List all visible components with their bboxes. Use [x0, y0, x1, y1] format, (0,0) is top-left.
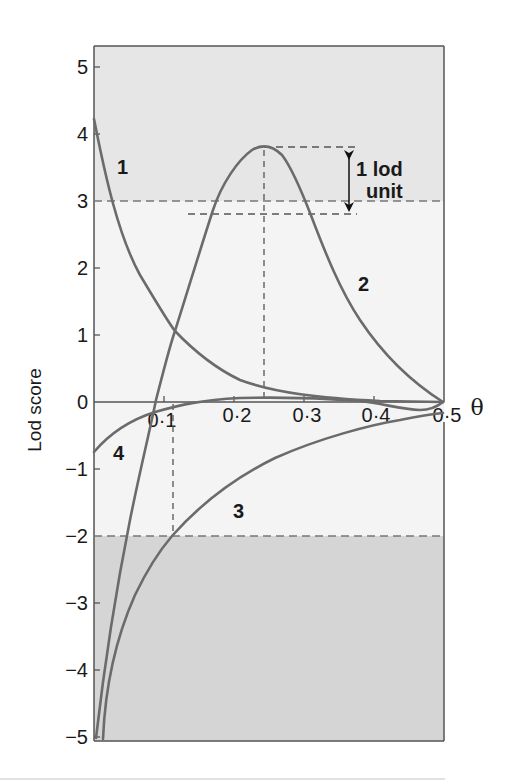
y-axis-title: Lod score [24, 368, 45, 451]
y-tick-3: 3 [77, 190, 88, 212]
y-tick-minus1: −1 [65, 458, 88, 480]
y-tick-minus4: −4 [65, 659, 88, 681]
lod-unit-label-line2: unit [366, 180, 403, 202]
curve-3-label: 3 [233, 500, 244, 522]
x-tick-0-3: 0·3 [293, 404, 322, 426]
y-tick-4: 4 [77, 123, 88, 145]
lod-score-chart: 5 4 3 2 1 0 −1 −2 −3 −4 −5 0·1 0·2 0·3 0… [0, 0, 509, 781]
y-tick-2: 2 [77, 257, 88, 279]
lod-unit-label-line1: 1 lod [356, 158, 403, 180]
x-tick-0-2: 0·2 [223, 404, 252, 426]
y-tick-minus3: −3 [65, 592, 88, 614]
curve-1-label: 1 [117, 156, 128, 178]
region-inconclusive [94, 201, 444, 536]
y-tick-minus2: −2 [65, 525, 88, 547]
x-axis-title: θ [470, 395, 483, 420]
curve-4-label: 4 [113, 442, 125, 464]
y-tick-5: 5 [77, 56, 88, 78]
region-linkage-excluded [94, 536, 444, 741]
curve-2-label: 2 [358, 273, 369, 295]
y-tick-1: 1 [77, 324, 88, 346]
y-tick-0: 0 [77, 391, 88, 413]
y-tick-minus5: −5 [65, 726, 88, 748]
